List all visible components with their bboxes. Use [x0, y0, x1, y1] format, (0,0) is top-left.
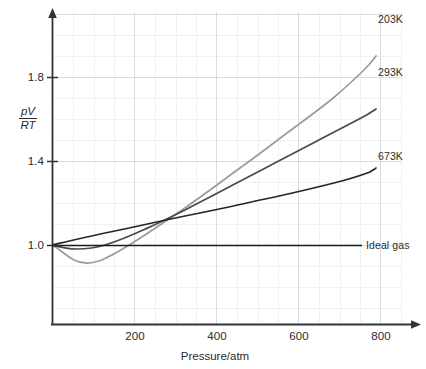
compressibility-chart: 1.8 1.4 1.0 200 400 600 800 Pressure/atm… [0, 0, 426, 369]
series-label-ideal-gas: Ideal gas [366, 239, 410, 251]
x-tick-label-800: 800 [356, 330, 406, 342]
x-axis [51, 320, 421, 329]
y-axis-title-denominator: RT [19, 119, 37, 131]
y-axis-title-numerator: pV [19, 106, 37, 119]
x-tick-label-200: 200 [110, 330, 160, 342]
chart-plot-area [0, 0, 426, 369]
series-label-203k: 203K [378, 13, 403, 25]
x-axis-title: Pressure/atm [155, 350, 275, 362]
major-gridlines [52, 12, 402, 324]
series-line-673k [52, 168, 376, 245]
series-line-293k [52, 109, 376, 249]
series-line-203k [52, 56, 376, 263]
y-axis [48, 8, 57, 325]
series-label-293k: 293K [378, 66, 403, 78]
x-tick-label-400: 400 [192, 330, 242, 342]
y-tick-label-1-4: 1.4 [12, 155, 44, 167]
x-tick-label-600: 600 [274, 330, 324, 342]
y-tick-label-1-0: 1.0 [12, 239, 44, 251]
y-tick-label-1-8: 1.8 [12, 71, 44, 83]
y-axis-title: pV RT [8, 106, 48, 131]
minor-gridlines [52, 12, 402, 324]
series-label-673k: 673K [378, 150, 403, 162]
